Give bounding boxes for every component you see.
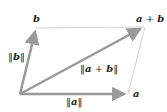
label-norm-a: ‖a‖ — [66, 97, 82, 107]
label-norm-a-right: ‖ — [77, 96, 82, 107]
label-point-b: b — [33, 14, 40, 24]
label-norm-sum-right: ‖ — [113, 63, 118, 74]
label-norm-b: ‖b‖ — [8, 52, 25, 62]
label-norm-b-vec: b — [13, 51, 20, 62]
edge-b-to-sum — [36, 27, 144, 28]
label-point-a: a — [133, 89, 139, 99]
label-point-sum-b: b — [157, 13, 164, 24]
label-point-b-text: b — [33, 13, 40, 24]
edge-a-to-sum — [128, 27, 145, 94]
vector-sum-arrow — [20, 29, 140, 94]
label-norm-b-right: ‖ — [20, 51, 25, 62]
label-norm-sum: ‖a + b‖ — [80, 64, 118, 74]
label-point-sum-op: + — [142, 13, 157, 24]
label-norm-sum-op: + — [91, 63, 106, 74]
label-point-sum: a + b — [136, 14, 164, 24]
label-point-a-text: a — [133, 88, 139, 99]
vector-b-arrow — [20, 32, 35, 94]
